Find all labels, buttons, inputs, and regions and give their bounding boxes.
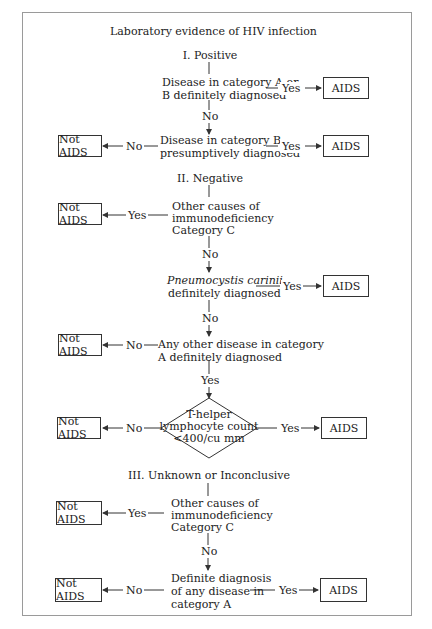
section-heading-unknown: III. Unknown or Inconclusive — [128, 469, 288, 482]
edge-label-no: No — [124, 422, 144, 435]
outcome-aids-box: AIDS — [321, 417, 367, 439]
node-n2-line1: Pneumocystis carinii — [167, 274, 283, 287]
outcome-not-aids-box: Not AIDS — [55, 578, 102, 602]
edge-label-yes: Yes — [199, 374, 221, 387]
edge-label-no: No — [124, 140, 144, 153]
node-u1-line3: Category C — [171, 521, 234, 534]
edge-label-no: No — [200, 248, 220, 261]
node-n1-line3: Category C — [172, 224, 235, 237]
node-u2-line3: category A — [171, 598, 231, 611]
node-n2-line2: definitely diagnosed — [168, 287, 281, 300]
outcome-aids-box: AIDS — [320, 578, 367, 602]
node-p2-line2: presumptively diagnosed — [160, 147, 300, 160]
node-p1-line2: B definitely diagnosed — [162, 89, 286, 102]
outcome-not-aids-box: Not AIDS — [58, 203, 102, 225]
edge-label-yes: Yes — [277, 584, 299, 597]
edge-label-no: No — [199, 545, 219, 558]
node-u2-line2: of any disease in — [171, 585, 264, 598]
edge-label-no: No — [124, 584, 144, 597]
outcome-not-aids-box: Not AIDS — [57, 417, 101, 439]
node-u2-line1: Definite diagnosis — [171, 572, 271, 585]
section-heading-positive: I. Positive — [160, 49, 260, 62]
edge-label-no: No — [200, 312, 220, 325]
outcome-not-aids-box: Not AIDS — [58, 334, 102, 356]
node-p2-line1: Disease in category B — [160, 134, 281, 147]
organism-name: Pneumocystis carinii — [167, 274, 283, 287]
outcome-aids-box: AIDS — [323, 77, 369, 99]
diagram-title: Laboratory evidence of HIV infection — [110, 25, 310, 38]
edge-label-yes: Yes — [279, 422, 301, 435]
edge-label-yes: Yes — [281, 280, 303, 293]
edge-label-no: No — [200, 110, 220, 123]
node-p1-line1: Disease in category A or — [162, 76, 298, 89]
node-n3-line2: A definitely diagnosed — [158, 351, 282, 364]
node-n3-line1: Any other disease in category — [158, 338, 324, 351]
node-n4-line3: <400/cu mm — [159, 432, 259, 445]
edge-label-yes: Yes — [280, 82, 302, 95]
edge-label-yes: Yes — [126, 209, 148, 222]
outcome-not-aids-box: Not AIDS — [56, 501, 102, 525]
outcome-aids-box: AIDS — [323, 135, 369, 157]
edge-label-yes: Yes — [126, 507, 148, 520]
outcome-aids-box: AIDS — [323, 275, 369, 297]
outcome-not-aids-box: Not AIDS — [58, 135, 102, 157]
edge-label-no: No — [124, 339, 144, 352]
edge-label-yes: Yes — [280, 140, 302, 153]
section-heading-negative: II. Negative — [160, 172, 260, 185]
